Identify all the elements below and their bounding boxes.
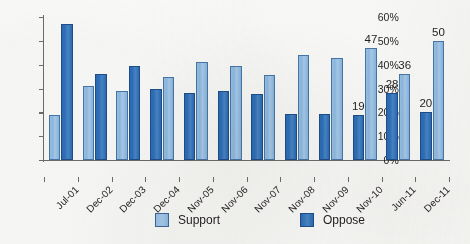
bar-group — [280, 17, 314, 160]
x-axis-tick — [348, 177, 349, 182]
x-axis-tick — [44, 177, 45, 182]
bar-oppose-nov-10 — [353, 115, 365, 160]
bar-oppose-nov-08 — [285, 114, 297, 160]
bar-support-dec-03 — [116, 91, 128, 160]
legend-label: Oppose — [323, 213, 365, 227]
data-label: 28 — [386, 78, 399, 90]
bar-oppose-dec-11 — [420, 112, 432, 160]
legend-swatch-support — [155, 213, 169, 227]
bar-support-nov-07 — [264, 75, 276, 160]
bar-oppose-dec-03 — [129, 66, 141, 160]
x-axis-tick — [449, 177, 450, 182]
y-axis-tick — [39, 160, 44, 161]
x-axis-tick — [78, 177, 79, 182]
data-label: 50 — [432, 26, 445, 38]
x-axis-tick — [247, 177, 248, 182]
x-axis-tick — [314, 177, 315, 182]
legend-item-oppose[interactable]: Oppose — [300, 213, 365, 227]
x-axis-tick — [382, 177, 383, 182]
bar-oppose-nov-07 — [251, 94, 263, 160]
bar-support-dec-11 — [433, 41, 445, 160]
bar-group — [179, 17, 213, 160]
x-axis-tick — [213, 177, 214, 182]
chart-legend: SupportOppose — [0, 206, 470, 236]
x-axis-tick — [179, 177, 180, 182]
bar-group — [145, 17, 179, 160]
bar-oppose-dec-04 — [150, 89, 162, 161]
bar-group — [112, 17, 146, 160]
bar-group — [415, 17, 449, 160]
bar-support-dec-04 — [163, 77, 175, 160]
bar-group — [78, 17, 112, 160]
legend-item-support[interactable]: Support — [155, 213, 220, 227]
legend-swatch-oppose — [300, 213, 314, 227]
bar-oppose-nov-05 — [184, 93, 196, 160]
bar-oppose-dec-02 — [95, 74, 107, 160]
bar-oppose-nov-06 — [218, 91, 230, 160]
bar-oppose-jun-11 — [386, 93, 398, 160]
x-axis-tick — [280, 177, 281, 182]
bar-oppose-nov-09 — [319, 114, 331, 160]
bar-support-jul-01 — [49, 115, 61, 160]
bar-support-nov-05 — [196, 62, 208, 160]
x-axis-tick — [415, 177, 416, 182]
legend-label: Support — [178, 213, 220, 227]
data-label: 47 — [365, 33, 378, 45]
bar-support-nov-10 — [365, 48, 377, 160]
bar-support-dec-02 — [83, 86, 95, 160]
bar-support-nov-08 — [298, 55, 310, 160]
bar-group — [213, 17, 247, 160]
bar-group — [314, 17, 348, 160]
bar-support-nov-06 — [230, 66, 242, 160]
bar-oppose-jul-01 — [61, 24, 73, 160]
bar-chart: 0%10%20%30%40%50%60% Jul-01Dec-02Dec-03D… — [0, 0, 470, 244]
data-label: 36 — [398, 59, 411, 71]
plot-area: 0%10%20%30%40%50%60% Jul-01Dec-02Dec-03D… — [44, 17, 449, 160]
bar-support-jun-11 — [399, 74, 411, 160]
bar-group — [247, 17, 281, 160]
bar-group — [44, 17, 78, 160]
x-axis-tick — [112, 177, 113, 182]
data-label: 19 — [352, 100, 365, 112]
data-label: 20 — [419, 97, 432, 109]
x-axis-tick — [145, 177, 146, 182]
bar-support-nov-09 — [331, 58, 343, 160]
